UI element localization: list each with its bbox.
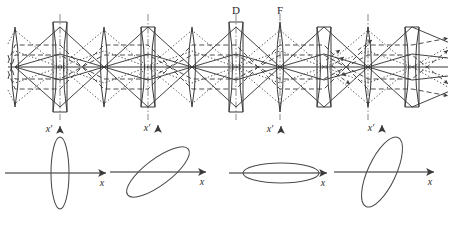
figure-root: DF xx′xx′xx′xx′ — [0, 0, 452, 231]
phase-xprime-axis-label: x′ — [143, 122, 151, 133]
phase-space-plots: xx′xx′xx′xx′ — [5, 122, 434, 212]
phase-xprime-axis-label: x′ — [45, 123, 53, 134]
ray-dashed-envelope — [8, 45, 448, 96]
phase-x-axis-label: x — [427, 176, 433, 187]
phase-plot-2: xx′ — [110, 122, 206, 205]
phase-x-axis-label: x — [99, 177, 105, 188]
phase-xprime-axis-label: x′ — [266, 123, 274, 134]
ray-dashed-envelope — [8, 38, 448, 89]
phase-plot-4: xx′ — [334, 122, 434, 212]
phase-x-axis-label: x — [199, 176, 205, 187]
phase-xprime-axis-label: x′ — [367, 122, 375, 133]
label-F: F — [277, 4, 283, 16]
phase-plot-1: xx′ — [5, 123, 106, 209]
beamline-diagram: DF — [8, 4, 448, 120]
phase-x-axis-label: x — [320, 177, 326, 188]
lens-type-labels: DF — [232, 4, 283, 16]
figure-canvas: DF xx′xx′xx′xx′ — [0, 0, 452, 231]
label-D: D — [232, 4, 240, 16]
phase-plot-3: xx′ — [229, 123, 327, 188]
